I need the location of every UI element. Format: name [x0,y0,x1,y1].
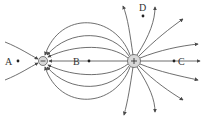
point-b-label: B [73,56,80,67]
point-c-label: C [178,56,185,67]
field-lines-svg: A B C D [0,0,207,119]
negative-charge [39,57,48,66]
point-d: D [139,2,146,17]
connecting-field-lines [45,23,130,100]
point-b: B [73,56,90,67]
positive-charge [128,55,141,68]
field-line-diagram: A B C D [0,0,207,119]
point-c: C [173,56,185,67]
point-d-label: D [139,2,146,13]
point-a-label: A [5,56,13,67]
point-a: A [5,56,19,67]
